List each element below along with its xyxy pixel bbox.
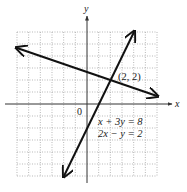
intersection-label: (2, 2) bbox=[118, 71, 141, 83]
x-axis-label: x bbox=[174, 98, 180, 109]
origin-label: 0 bbox=[77, 106, 82, 117]
y-axis-label: y bbox=[83, 3, 89, 14]
equation-1-label: x + 3y = 8 bbox=[97, 116, 143, 127]
coordinate-plane: x y 0 (2, 2) x + 3y = 8 2x − y = 2 bbox=[0, 0, 187, 192]
equation-2-label: 2x − y = 2 bbox=[98, 128, 143, 139]
